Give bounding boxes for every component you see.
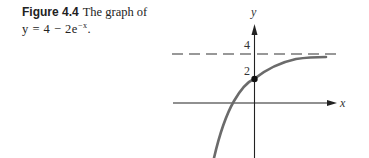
- y-tick-4: 4: [244, 38, 250, 52]
- function-curve: [214, 57, 326, 158]
- y-tick-2: 2: [244, 64, 250, 78]
- x-axis-label: x: [339, 96, 346, 110]
- y-axis-arrow-icon: [252, 24, 258, 35]
- function-graph: y x 4 2: [0, 0, 369, 158]
- y-intercept-point: [251, 76, 257, 82]
- x-axis-arrow-icon: [327, 100, 337, 106]
- y-axis-label: y: [250, 5, 257, 19]
